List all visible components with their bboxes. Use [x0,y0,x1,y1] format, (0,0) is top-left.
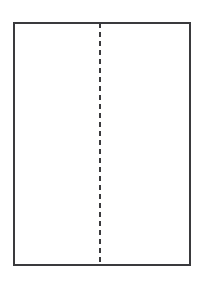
outer-rectangle-shape [13,22,191,266]
diagram-canvas: Plain rectangle outline with a single da… [0,0,205,284]
center-dashed-line-shape [99,23,101,265]
